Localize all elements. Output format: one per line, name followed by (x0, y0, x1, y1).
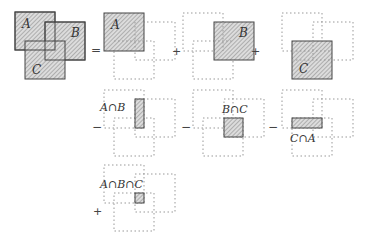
label-a: A (21, 17, 31, 31)
svg-text:A∩B: A∩B (99, 101, 125, 114)
minus-sign-2: − (181, 120, 191, 134)
highlight-b-and-c (224, 118, 243, 137)
equals-sign: = (91, 43, 101, 57)
svg-text:C∩A: C∩A (290, 132, 316, 145)
svg-text:A: A (110, 18, 120, 32)
term-c: C (282, 13, 353, 79)
venn-full: A B C (15, 12, 85, 79)
highlight-b (214, 22, 254, 60)
plus-sign-1: + (172, 45, 181, 58)
highlight-a-and-b-and-c (135, 193, 144, 203)
label-b: B (70, 26, 80, 40)
term-b: B (183, 13, 254, 79)
plus-sign-3: + (93, 205, 102, 218)
label-c: C (32, 63, 41, 77)
highlight-a (104, 13, 144, 51)
term-a: A (104, 13, 175, 79)
term-c-and-a: C∩A (282, 90, 353, 156)
minus-sign-3: − (268, 120, 278, 134)
minus-sign-1: − (92, 120, 102, 134)
term-b-and-c: B∩C (193, 90, 264, 156)
term-a-and-b: A∩B (99, 90, 175, 156)
highlight-c-and-a (292, 118, 322, 128)
svg-text:B∩C: B∩C (221, 103, 248, 116)
svg-text:C: C (299, 62, 308, 76)
term-a-and-b-and-c: A∩B∩C (99, 165, 175, 231)
inclusion-exclusion-diagram: A B C = A + B + C − (0, 0, 366, 246)
plus-sign-2: + (251, 45, 260, 58)
svg-text:B: B (238, 26, 248, 40)
svg-text:A∩B∩C: A∩B∩C (99, 178, 143, 191)
